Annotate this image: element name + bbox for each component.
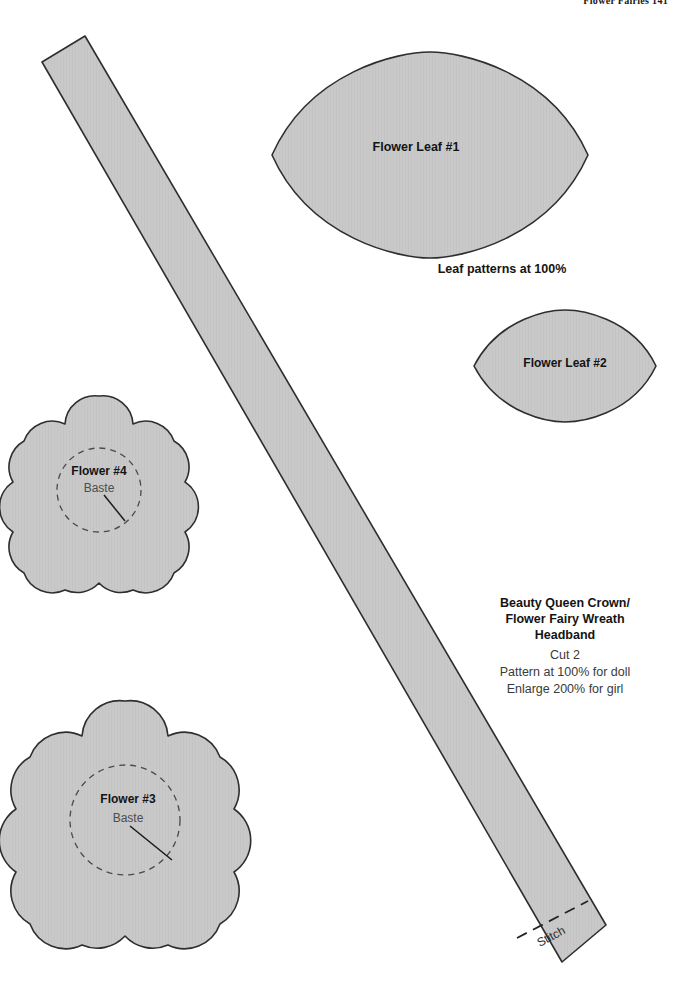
flower-4-baste-label: Baste [84, 481, 115, 495]
flower-3-baste-label: Baste [113, 811, 144, 825]
headband-title-line-1: Beauty Queen Crown/ [500, 596, 630, 610]
headband-note-girl: Enlarge 200% for girl [507, 682, 624, 696]
flower-3-label: Flower #3 [100, 792, 156, 806]
pattern-canvas: Stitch Flower Leaf #1 Leaf patterns at 1… [0, 0, 676, 992]
headband-cut-count: Cut 2 [550, 648, 580, 662]
flower-3-group: Flower #3 Baste [0, 701, 251, 949]
flower-4-group: Flower #4 Baste [0, 396, 198, 593]
flower-leaf-2-label: Flower Leaf #2 [523, 356, 607, 370]
flower-leaf-2-group: Flower Leaf #2 [474, 310, 656, 422]
headband-title-line-2: Flower Fairy Wreath [505, 612, 624, 626]
headband-title-line-3: Headband [535, 628, 595, 642]
headband-caption-block: Beauty Queen Crown/ Flower Fairy Wreath … [500, 596, 631, 696]
headband-note-doll: Pattern at 100% for doll [500, 665, 631, 679]
flower-4-label: Flower #4 [71, 464, 127, 478]
flower-leaf-1-outline [272, 52, 588, 258]
flower-leaf-1-label: Flower Leaf #1 [373, 140, 460, 154]
flower-leaf-1-group: Flower Leaf #1 [272, 52, 588, 258]
pattern-sheet: Flower Fairies 141 Stitch Flower Leaf #1… [0, 0, 676, 992]
leaf-patterns-caption: Leaf patterns at 100% [438, 262, 567, 276]
